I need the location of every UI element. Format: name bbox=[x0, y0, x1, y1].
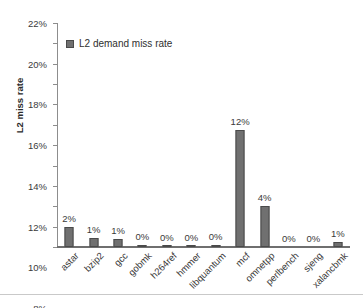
bar-value-label: 12% bbox=[231, 116, 250, 127]
bar-chart: L2 miss rate 0%2%4%6%8%10%12%14%16%18%20… bbox=[0, 0, 363, 308]
y-axis-title: L2 miss rate bbox=[14, 61, 25, 151]
bar bbox=[260, 206, 269, 247]
bar-slot: 1% bbox=[327, 23, 349, 247]
bar-value-label: 1% bbox=[87, 224, 101, 235]
x-tick-label: bzip2 bbox=[82, 250, 106, 274]
bar-slot: 0% bbox=[131, 23, 153, 247]
legend-swatch-icon bbox=[66, 40, 74, 48]
bar-series: 2%1%1%0%0%0%0%12%4%0%0%1% bbox=[57, 23, 350, 247]
bar-slot: 1% bbox=[107, 23, 129, 247]
bar-slot: 2% bbox=[58, 23, 80, 247]
bar bbox=[138, 245, 147, 247]
y-tick-label: 22% bbox=[28, 18, 47, 29]
y-tick-label: 10% bbox=[28, 262, 47, 273]
bar-value-label: 1% bbox=[111, 225, 125, 236]
x-tick-label: h264ref bbox=[148, 250, 179, 281]
y-tick-label: 20% bbox=[28, 58, 47, 69]
bar-value-label: 0% bbox=[307, 233, 321, 244]
bar-slot: 0% bbox=[156, 23, 178, 247]
y-tick-label: 16% bbox=[28, 140, 47, 151]
x-tick-label: mcf bbox=[233, 250, 252, 269]
bar-value-label: 0% bbox=[282, 233, 296, 244]
bar bbox=[162, 245, 171, 247]
bar bbox=[187, 245, 196, 247]
bar bbox=[211, 245, 220, 247]
bar-slot: 0% bbox=[278, 23, 300, 247]
bar-slot: 0% bbox=[180, 23, 202, 247]
bar bbox=[65, 227, 74, 247]
bar bbox=[236, 130, 245, 247]
legend-label: L2 demand miss rate bbox=[79, 38, 172, 49]
bar-value-label: 2% bbox=[62, 213, 76, 224]
footer-divider bbox=[0, 294, 363, 295]
bar-value-label: 0% bbox=[160, 232, 174, 243]
chart-legend: L2 demand miss rate bbox=[66, 38, 172, 49]
y-tick-label: 14% bbox=[28, 180, 47, 191]
bar-slot: 0% bbox=[302, 23, 324, 247]
bar bbox=[333, 242, 342, 247]
bar bbox=[89, 238, 98, 247]
y-tick-label: 8% bbox=[33, 303, 47, 308]
bar-slot: 0% bbox=[205, 23, 227, 247]
bar-slot: 1% bbox=[83, 23, 105, 247]
y-tick: 0% bbox=[53, 247, 57, 248]
bar bbox=[114, 239, 123, 247]
bar-value-label: 1% bbox=[331, 228, 345, 239]
bar-value-label: 0% bbox=[184, 232, 198, 243]
x-tick-label: gcc bbox=[112, 250, 130, 268]
y-tick-label: 18% bbox=[28, 99, 47, 110]
bar-slot: 12% bbox=[229, 23, 251, 247]
x-tick-label: astar bbox=[58, 250, 81, 273]
bar-value-label: 0% bbox=[209, 231, 223, 242]
bar-value-label: 0% bbox=[136, 231, 150, 242]
bar-value-label: 4% bbox=[258, 192, 272, 203]
y-tick-label: 12% bbox=[28, 221, 47, 232]
bar-slot: 4% bbox=[254, 23, 276, 247]
plot-area: 0%2%4%6%8%10%12%14%16%18%20%22% 2%1%1%0%… bbox=[57, 23, 350, 247]
